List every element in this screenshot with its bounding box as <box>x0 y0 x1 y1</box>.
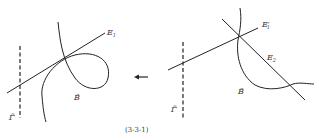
right-line-e1-prime <box>168 28 258 70</box>
blowup-diagram: E1 B̃ Γ̃ E′1 E2 B̃ Γ̃ (3-3-1) <box>0 0 319 140</box>
left-line-e1 <box>7 33 105 93</box>
right-curve-b <box>238 8 314 89</box>
figure-caption: (3-3-1) <box>125 126 149 134</box>
right-label-gamma: Γ̃ <box>170 105 177 114</box>
right-label-e2: E2 <box>266 53 276 63</box>
left-label-gamma: Γ̃ <box>8 113 15 122</box>
right-label-e1-prime: E′1 <box>261 20 270 30</box>
left-label-b: B̃ <box>73 93 80 102</box>
right-panel <box>168 8 314 120</box>
left-arrow-icon <box>134 75 148 80</box>
left-label-e1: E1 <box>106 28 116 38</box>
left-panel <box>7 22 109 122</box>
right-label-b: B̃ <box>237 87 244 96</box>
